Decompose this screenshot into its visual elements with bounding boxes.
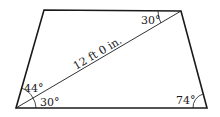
diagonal-length-label: 12 ft 0 in. — [71, 34, 124, 73]
angle-arc-bottom-left-lower — [33, 98, 36, 108]
angle-label-bottom-left-upper: 44° — [24, 82, 44, 95]
trapezoid-diagram: 44° 30° 30° 74° 12 ft 0 in. — [0, 0, 220, 117]
angle-label-bottom-left-lower: 30° — [40, 96, 60, 109]
angle-label-top-right: 30° — [141, 14, 161, 27]
angle-label-bottom-right: 74° — [176, 94, 196, 107]
